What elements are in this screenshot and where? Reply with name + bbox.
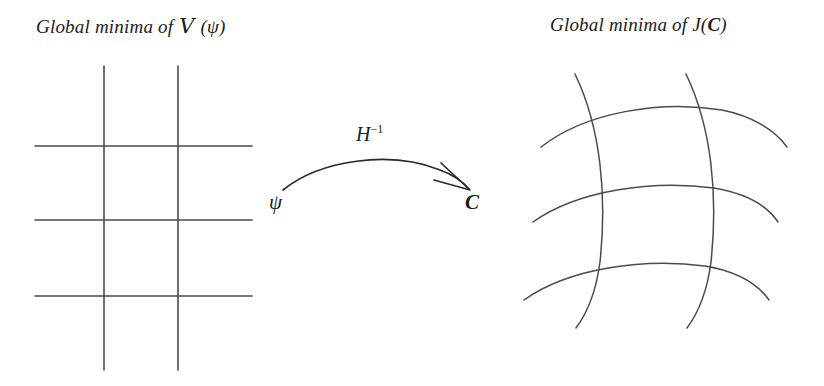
mapping-arrow [283,160,470,190]
diagram-canvas [0,0,824,386]
transformation-diagram: Global minima of V (ψ) Global minima of … [0,0,824,386]
map-label-h-inverse: H−1 [356,122,383,146]
curved-horizontal-line [541,107,787,147]
curved-vertical-line [575,74,603,328]
curved-vertical-line [686,74,714,328]
rectilinear-grid [35,66,252,370]
arrow-head-icon [434,163,470,190]
map-label-base: H [356,123,370,145]
curvilinear-grid [524,74,787,328]
curved-horizontal-line [533,185,778,222]
map-label-exponent: −1 [370,122,383,136]
arrow-target-label-c: C [465,190,479,215]
arrow-source-label-psi: ψ [269,190,282,215]
curved-horizontal-line [524,263,769,300]
